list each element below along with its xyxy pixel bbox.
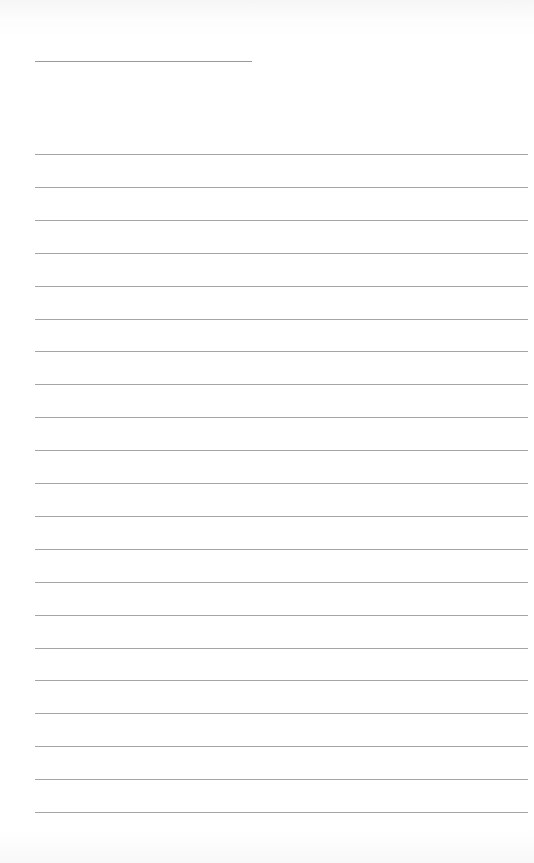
ruled-line xyxy=(35,746,528,747)
ruled-line xyxy=(35,615,528,616)
ruled-line xyxy=(35,417,528,418)
title-write-line xyxy=(35,61,252,62)
ruled-line xyxy=(35,384,528,385)
ruled-line xyxy=(35,154,528,155)
ruled-line xyxy=(35,187,528,188)
ruled-line xyxy=(35,483,528,484)
ruled-line xyxy=(35,286,528,287)
ruled-line xyxy=(35,319,528,320)
ruled-line xyxy=(35,220,528,221)
ruled-line xyxy=(35,779,528,780)
ruled-line xyxy=(35,713,528,714)
ruled-line xyxy=(35,253,528,254)
ruled-line xyxy=(35,450,528,451)
ruled-line xyxy=(35,516,528,517)
ruled-line xyxy=(35,549,528,550)
ruled-line xyxy=(35,680,528,681)
ruled-line xyxy=(35,812,528,813)
ruled-line xyxy=(35,582,528,583)
lined-paper-page xyxy=(0,0,534,863)
ruled-line xyxy=(35,351,528,352)
ruled-line xyxy=(35,648,528,649)
